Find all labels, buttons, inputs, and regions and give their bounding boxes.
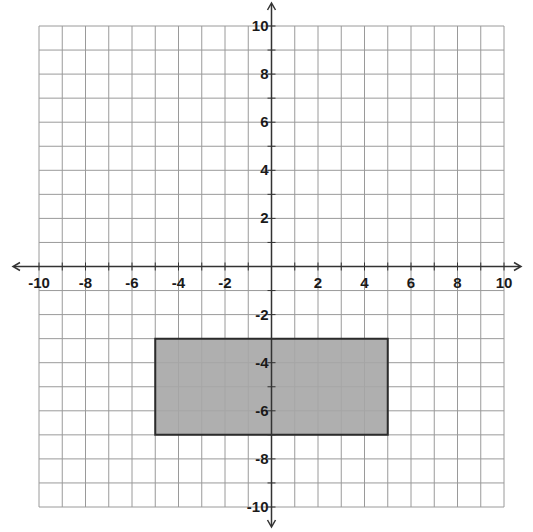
x-tick-label: -6 <box>125 274 138 291</box>
x-tick-label: 6 <box>407 274 415 291</box>
y-tick-label: -10 <box>247 498 269 515</box>
x-tick-label: -2 <box>218 274 231 291</box>
x-tick-label: 10 <box>496 274 513 291</box>
x-tick-label: 2 <box>314 274 322 291</box>
y-tick-label: -8 <box>255 450 268 467</box>
x-tick-label: 4 <box>360 274 369 291</box>
x-tick-label: -10 <box>28 274 50 291</box>
x-axis-tick-labels: -10-8-6-4-2246810 <box>28 274 512 291</box>
y-tick-label: -6 <box>255 402 268 419</box>
x-tick-label: 8 <box>453 274 461 291</box>
coordinate-plane: -10-8-6-4-2246810 108642-2-4-6-8-10 <box>0 0 533 532</box>
y-tick-label: -2 <box>255 306 268 323</box>
y-tick-label: 6 <box>260 113 268 130</box>
y-tick-label: 8 <box>260 65 268 82</box>
y-tick-label: -4 <box>255 354 269 371</box>
y-tick-label: 10 <box>252 17 269 34</box>
x-tick-label: -8 <box>79 274 92 291</box>
y-tick-label: 4 <box>260 161 269 178</box>
x-tick-label: -4 <box>172 274 186 291</box>
y-tick-label: 2 <box>260 209 268 226</box>
